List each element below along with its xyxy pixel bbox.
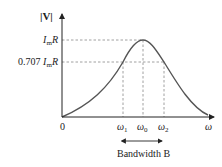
origin-label: 0 (60, 122, 65, 132)
response-curve (62, 40, 208, 117)
omega2-sub: 2 (165, 126, 169, 134)
half-power-level-label: 0.707 ImR (18, 57, 58, 69)
y-axis-label: |V| (40, 11, 53, 22)
omega2-sym: ω (158, 121, 165, 132)
omega2-label: ω2 (158, 122, 169, 134)
omega1-sym: ω (117, 121, 124, 132)
omega1-label: ω1 (117, 122, 128, 134)
omega0-label: ω0 (137, 122, 148, 134)
omega0-sub: 0 (144, 126, 148, 134)
x-axis-label: ω (205, 122, 212, 132)
guide-lines (62, 40, 164, 117)
peak-level-label: ImR (43, 35, 58, 47)
half-power-coef: 0.707 (18, 56, 43, 67)
plot-canvas (0, 0, 222, 167)
bandwidth-label: Bandwidth B (117, 149, 170, 159)
omega0-sym: ω (137, 121, 144, 132)
half-power-tail: R (52, 56, 58, 67)
frequency-response-diagram: |V| ImR 0.707 ImR 0 ω1 ω0 ω2 ω Bandwidth… (0, 0, 222, 167)
omega1-sub: 1 (124, 126, 128, 134)
peak-tail: R (52, 34, 58, 45)
